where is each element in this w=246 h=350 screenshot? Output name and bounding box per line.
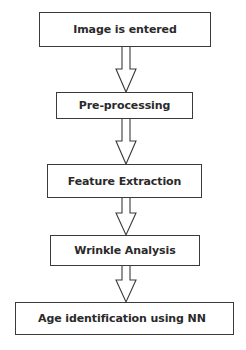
node-label: Feature Extraction	[68, 175, 182, 188]
arrow-1-to-2	[116, 47, 136, 92]
node-wrinkle-analysis: Wrinkle Analysis	[50, 235, 200, 266]
node-image-entered: Image is entered	[39, 12, 211, 47]
arrow-2-to-3	[116, 119, 136, 164]
node-pre-processing: Pre-processing	[56, 92, 193, 119]
node-label: Age identification using NN	[38, 312, 206, 325]
node-feature-extraction: Feature Extraction	[47, 164, 202, 198]
node-label: Image is entered	[73, 23, 176, 36]
arrow-3-to-4	[116, 198, 136, 235]
node-label: Wrinkle Analysis	[74, 244, 175, 257]
node-label: Pre-processing	[79, 99, 171, 112]
arrow-4-to-5	[116, 266, 136, 302]
node-age-identification: Age identification using NN	[15, 302, 234, 335]
